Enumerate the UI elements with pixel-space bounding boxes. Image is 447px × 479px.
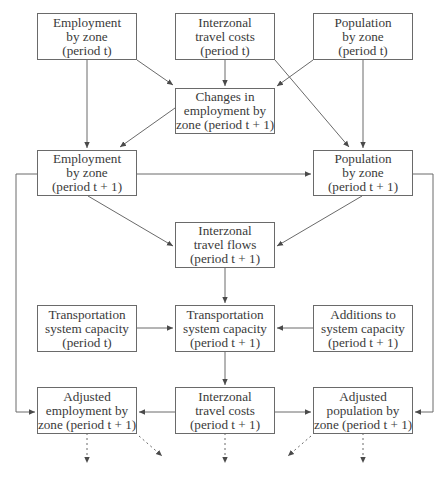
node-employment-period-t: Employment by zone (period t) [37,13,137,60]
node-label-line: (period t) [62,336,111,350]
node-label-line: (period t + 1) [328,336,398,350]
node-label-line: travel costs [195,404,255,418]
dotted-arrow-adj-emp-diagonal [139,436,162,456]
arrow-emp-t1-to-adj-emp [16,174,37,412]
node-label-line: system capacity [321,322,405,336]
node-travel-costs-period-t: Interzonal travel costs (period t) [175,13,275,60]
node-label-line: zone (period t + 1) [38,418,136,432]
node-label-line: travel flows [194,238,257,252]
node-travel-costs-period-t1: Interzonal travel costs (period t + 1) [175,387,275,434]
node-label-line: Interzonal [198,16,251,30]
node-label-line: by zone [66,166,107,180]
arrow-pop-t1-to-flows [277,196,362,246]
node-population-period-t1: Population by zone (period t + 1) [313,150,413,196]
arrow-emp-t1-to-flows [88,196,173,246]
arrow-pop-t-to-changes [277,60,313,86]
node-label-line: travel costs [195,30,255,44]
node-label-line: zone (period t + 1) [176,118,274,132]
node-label-line: employment by [184,104,266,118]
node-label-line: system capacity [45,322,129,336]
node-adjusted-employment: Adjusted employment by zone (period t + … [37,387,137,434]
node-changes-in-employment: Changes in employment by zone (period t … [175,88,275,134]
node-label-line: (period t + 1) [190,418,260,432]
node-label-line: system capacity [183,322,267,336]
node-capacity-period-t1: Transportation system capacity (period t… [175,305,275,352]
node-label-line: Transportation [186,308,263,322]
node-label-line: by zone [342,166,383,180]
node-label-line: (period t + 1) [190,252,260,266]
node-label-line: Interzonal [198,390,251,404]
node-label-line: (period t) [62,44,111,58]
node-label-line: Additions to [330,308,396,322]
node-label-line: Adjusted [339,390,387,404]
node-employment-period-t1: Employment by zone (period t + 1) [37,150,137,196]
node-label-line: zone (period t + 1) [314,418,412,432]
node-label-line: Population [334,152,391,166]
node-capacity-period-t: Transportation system capacity (period t… [37,305,137,352]
node-label-line: (period t) [200,44,249,58]
node-label-line: by zone [342,30,383,44]
arrow-emp-t-to-changes [137,60,173,85]
node-label-line: employment by [46,404,128,418]
node-label-line: (period t + 1) [328,180,398,194]
node-adjusted-population: Adjusted population by zone (period t + … [313,387,413,434]
node-population-period-t: Population by zone (period t) [313,13,413,60]
node-label-line: Population [334,16,391,30]
node-label-line: Employment [53,16,121,30]
node-label-line: population by [327,404,400,418]
node-travel-flows-period-t1: Interzonal travel flows (period t + 1) [175,222,275,268]
node-label-line: by zone [66,30,107,44]
node-label-line: (period t + 1) [52,180,122,194]
node-label-line: Interzonal [198,224,251,238]
arrow-pop-t1-to-adj-pop [413,174,433,412]
dotted-arrow-adj-pop-diagonal [288,436,311,456]
node-label-line: (period t) [338,44,387,58]
node-label-line: Transportation [48,308,125,322]
arrow-cost-t-to-pop-t1 [275,60,349,147]
arrow-changes-to-emp-t1 [120,108,175,147]
node-label-line: Adjusted [63,390,111,404]
node-label-line: Changes in [196,90,255,104]
node-label-line: (period t + 1) [190,336,260,350]
node-additions-to-capacity: Additions to system capacity (period t +… [313,305,413,352]
node-label-line: Employment [53,152,121,166]
